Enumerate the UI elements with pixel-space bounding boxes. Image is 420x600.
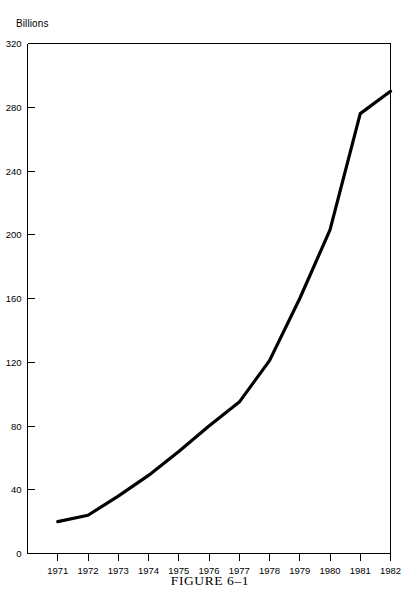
figure-caption: FIGURE 6–1 [0, 573, 420, 589]
data-line-series [58, 91, 391, 521]
line-chart: 04080120160200240280320 1971197219731974… [0, 0, 420, 600]
y-tick-label: 280 [6, 102, 22, 113]
plot-frame [28, 44, 391, 554]
y-tick-label: 40 [11, 484, 22, 495]
y-tick-label: 240 [6, 166, 22, 177]
data-series-group [58, 91, 391, 521]
y-tick-label: 320 [6, 38, 22, 49]
y-tick-label: 120 [6, 357, 22, 368]
y-tick-label: 80 [11, 421, 22, 432]
y-axis-ticks: 04080120160200240280320 [6, 38, 35, 559]
y-tick-label: 160 [6, 293, 22, 304]
axis-frame [28, 44, 391, 554]
figure-container: Billions 04080120160200240280320 1971197… [0, 0, 420, 600]
y-tick-label: 0 [16, 548, 21, 559]
y-tick-label: 200 [6, 229, 22, 240]
